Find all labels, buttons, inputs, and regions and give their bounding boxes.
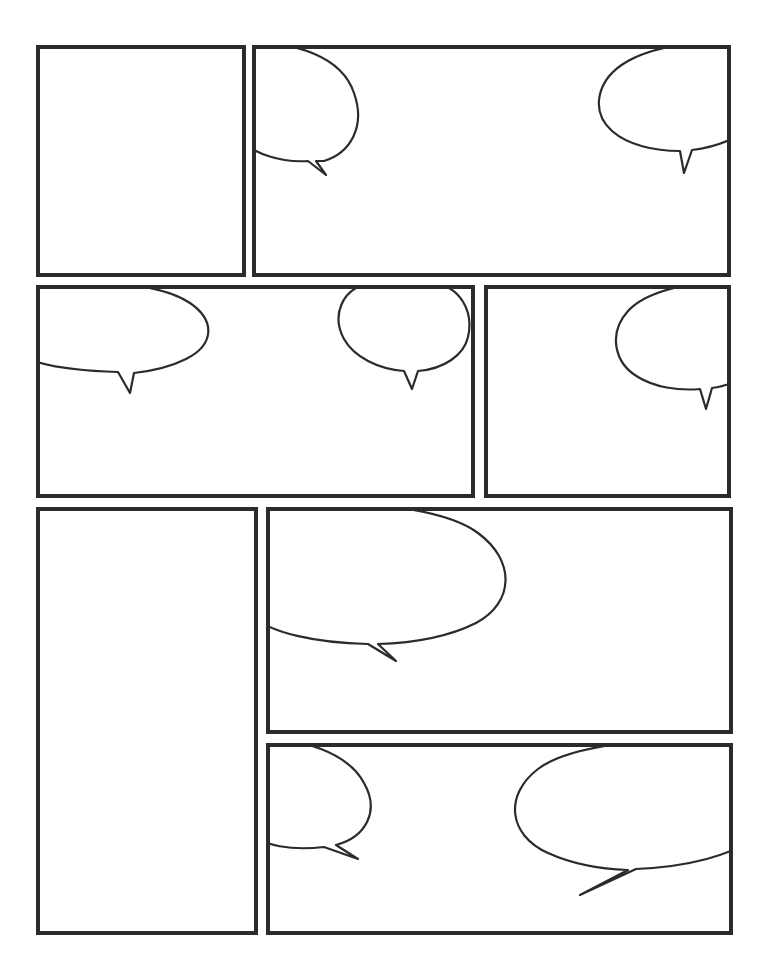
comic-page — [0, 0, 766, 976]
comic-panel-4[interactable] — [484, 285, 731, 498]
panel-1-artwork-area[interactable] — [40, 49, 242, 273]
comic-panel-7[interactable] — [266, 743, 733, 935]
panel-7-artwork-area[interactable] — [270, 747, 729, 931]
panel-5-artwork-area[interactable] — [40, 511, 254, 931]
comic-panel-1[interactable] — [36, 45, 246, 277]
panel-4-artwork-area[interactable] — [488, 289, 727, 494]
panel-2-artwork-area[interactable] — [256, 49, 727, 273]
comic-panel-3[interactable] — [36, 285, 475, 498]
comic-panel-2[interactable] — [252, 45, 731, 277]
panel-6-artwork-area[interactable] — [270, 511, 729, 730]
comic-panel-5[interactable] — [36, 507, 258, 935]
panel-3-artwork-area[interactable] — [40, 289, 471, 494]
comic-panel-6[interactable] — [266, 507, 733, 734]
